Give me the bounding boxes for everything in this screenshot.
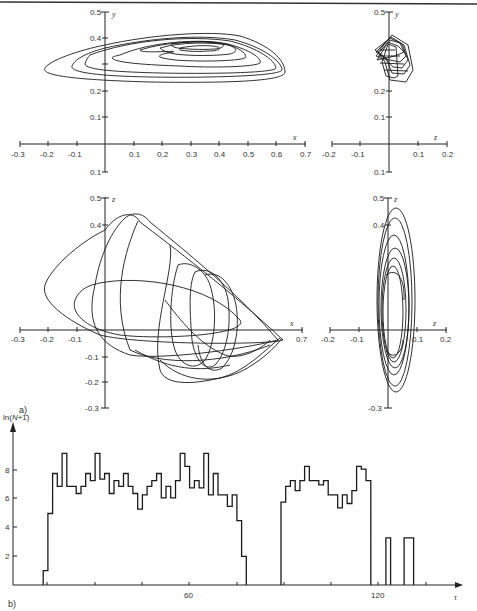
svg-text:120: 120 — [371, 591, 385, 600]
svg-text:6: 6 — [5, 494, 10, 503]
svg-text:0.4: 0.4 — [90, 221, 102, 230]
svg-text:-0.1: -0.1 — [68, 150, 82, 159]
svg-text:0.5: 0.5 — [373, 194, 385, 203]
svg-text:0.2: 0.2 — [90, 87, 102, 96]
svg-text:0.4: 0.4 — [214, 150, 226, 159]
svg-text:-0.3: -0.3 — [11, 150, 25, 159]
svg-text:-0.3: -0.3 — [11, 335, 25, 344]
panel-b-label: b) — [8, 599, 16, 609]
svg-text:-0.1: -0.1 — [351, 150, 365, 159]
svg-text:0.7: 0.7 — [300, 150, 312, 159]
svg-text:-0.2: -0.2 — [40, 150, 54, 159]
svg-text:0.4: 0.4 — [373, 221, 385, 230]
svg-text:z: z — [433, 133, 438, 142]
plot-zy: -0.2-0.1 0.10.2 0.50.2 0.10.1 y z — [322, 8, 454, 177]
svg-text:-0.2: -0.2 — [40, 335, 54, 344]
svg-text:-0.2: -0.2 — [321, 335, 335, 344]
svg-text:0.1: 0.1 — [374, 113, 386, 122]
svg-text:-0.1: -0.1 — [350, 335, 364, 344]
svg-text:τ: τ — [454, 593, 458, 602]
svg-text:y: y — [394, 10, 399, 19]
svg-text:0.1: 0.1 — [413, 150, 425, 159]
svg-text:0.5: 0.5 — [374, 8, 386, 17]
plot-xz: -0.3-0.2 -0.10.7 0.50.4 -0.1-0.2 -0.3 z … — [11, 194, 308, 413]
svg-text:0.4: 0.4 — [90, 34, 102, 43]
svg-text:y: y — [111, 10, 116, 19]
svg-text:ln(N+1̂): ln(N+1̂) — [3, 413, 30, 422]
svg-text:-0.1: -0.1 — [68, 335, 82, 344]
svg-text:0.2: 0.2 — [442, 150, 454, 159]
svg-text:0.1: 0.1 — [90, 113, 102, 122]
svg-text:0.6: 0.6 — [271, 150, 283, 159]
figure: -0.3-0.2 -0.10.1 0.20.3 0.40.5 0.60.7 0.… — [0, 0, 477, 611]
svg-text:-0.2: -0.2 — [322, 150, 336, 159]
svg-text:0.1: 0.1 — [129, 150, 141, 159]
svg-text:0.1: 0.1 — [90, 168, 102, 177]
svg-text:60: 60 — [184, 591, 193, 600]
svg-text:0.5: 0.5 — [90, 194, 102, 203]
svg-text:0.7: 0.7 — [296, 335, 308, 344]
svg-text:2: 2 — [5, 552, 10, 561]
histogram: 24 68 60120 ln(N+1̂) τ — [3, 413, 463, 602]
svg-text:z: z — [432, 319, 437, 328]
svg-text:-0.3: -0.3 — [85, 404, 99, 413]
plot-xy: -0.3-0.2 -0.10.1 0.20.3 0.40.5 0.60.7 0.… — [11, 8, 312, 177]
svg-text:z: z — [393, 195, 398, 204]
plot-zz: -0.2-0.1 0.10.2 0.50.4 -0.3 z z — [321, 194, 452, 413]
svg-text:0.5: 0.5 — [243, 150, 255, 159]
svg-text:0.3: 0.3 — [186, 150, 198, 159]
header-rule — [0, 2, 477, 4]
svg-text:4: 4 — [5, 523, 10, 532]
svg-text:-0.1: -0.1 — [85, 353, 99, 362]
svg-text:-0.2: -0.2 — [85, 378, 99, 387]
svg-text:-0.3: -0.3 — [368, 404, 382, 413]
svg-text:0.2: 0.2 — [440, 335, 452, 344]
svg-text:z: z — [111, 195, 116, 204]
svg-text:0.5: 0.5 — [90, 8, 102, 17]
svg-text:8: 8 — [5, 466, 10, 475]
svg-text:0.1: 0.1 — [374, 168, 386, 177]
svg-text:0.2: 0.2 — [157, 150, 169, 159]
svg-text:0.2: 0.2 — [374, 87, 386, 96]
svg-text:x: x — [292, 133, 297, 142]
svg-text:x: x — [289, 319, 294, 328]
